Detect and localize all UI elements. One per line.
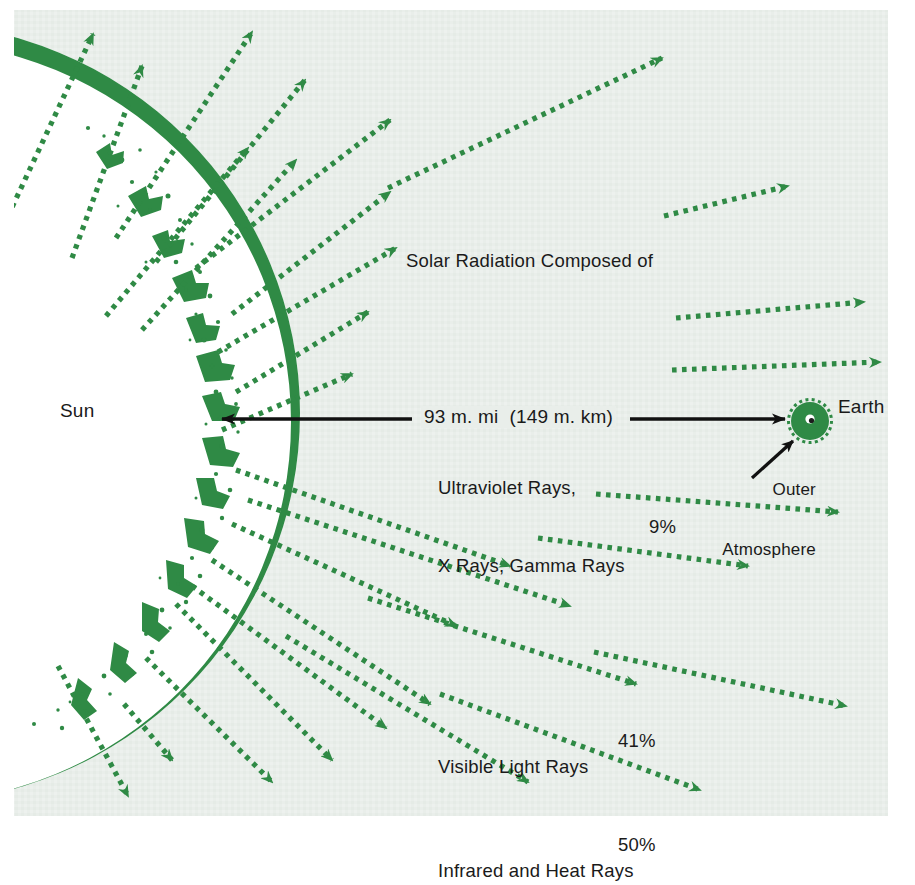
legend-item-uv-percent: 9% <box>649 514 676 540</box>
legend-item-uv-label-2: X Rays, Gamma Rays <box>438 555 625 576</box>
legend-item-visible-label: Visible Light Rays <box>438 756 588 777</box>
earth-label: Earth <box>838 396 884 418</box>
earth-center-core <box>809 418 814 423</box>
legend-item-uv-line2: X Rays, Gamma Rays 9% <box>406 527 653 553</box>
legend-heading: Solar Radiation Composed of <box>406 248 653 274</box>
legend-item-uv-line1: Ultraviolet Rays, <box>406 449 653 475</box>
legend-spacer-1 <box>406 352 653 371</box>
legend-item-uv-label-1: Ultraviolet Rays, <box>438 477 576 498</box>
legend-item-visible-percent: 41% <box>618 728 656 754</box>
radiation-composition-legend: Solar Radiation Composed of Ultraviolet … <box>406 196 653 885</box>
legend-item-infrared: Infrared and Heat Rays 50% <box>406 832 653 858</box>
legend-item-visible: Visible Light Rays 41% <box>406 728 653 754</box>
legend-item-infrared-percent: 50% <box>618 832 656 858</box>
legend-item-infrared-label: Infrared and Heat Rays <box>438 860 634 881</box>
outer-atmosphere-line2: Atmosphere <box>666 540 816 560</box>
sun-label: Sun <box>60 400 94 422</box>
outer-atmosphere-line1: Outer <box>666 480 816 500</box>
outer-atmosphere-label: Outer Atmosphere <box>666 440 816 600</box>
legend-spacer-2 <box>406 631 653 650</box>
